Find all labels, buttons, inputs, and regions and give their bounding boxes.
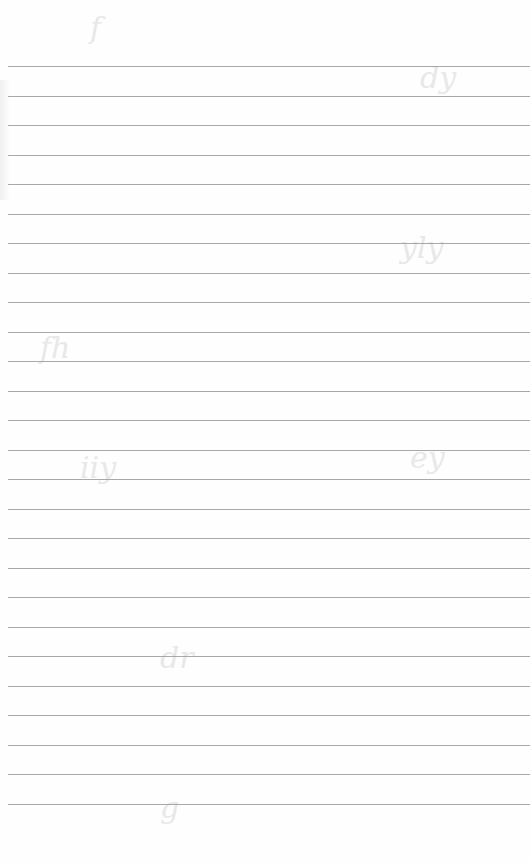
ruled-line [8, 243, 530, 244]
ruled-line [8, 715, 530, 716]
ruled-line [8, 184, 530, 185]
notebook-page: f dy yly fh iiy ey dr g [0, 0, 530, 863]
ruled-line [8, 774, 530, 775]
ruled-line [8, 597, 530, 598]
ruled-line [8, 420, 530, 421]
ruled-line [8, 155, 530, 156]
ruled-line [8, 66, 530, 67]
ruled-lines [8, 66, 530, 806]
ruled-line [8, 273, 530, 274]
ruled-line [8, 479, 530, 480]
ruled-line [8, 214, 530, 215]
ruled-line [8, 332, 530, 333]
ruled-line [8, 125, 530, 126]
ruled-line [8, 656, 530, 657]
ruled-line [8, 538, 530, 539]
ruled-line [8, 745, 530, 746]
ruled-line [8, 302, 530, 303]
bleed-through-mark: f [90, 10, 101, 45]
ruled-line [8, 450, 530, 451]
ruled-line [8, 509, 530, 510]
ruled-line [8, 804, 530, 805]
ruled-line [8, 568, 530, 569]
ruled-line [8, 686, 530, 687]
ruled-line [8, 96, 530, 97]
ruled-line [8, 361, 530, 362]
ruled-line [8, 391, 530, 392]
ruled-line [8, 627, 530, 628]
